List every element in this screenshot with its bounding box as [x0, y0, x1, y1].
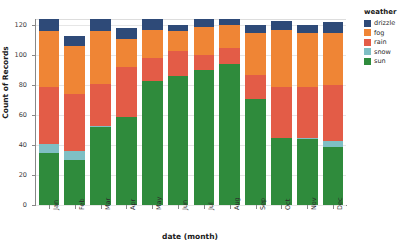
- legend-item-drizzle[interactable]: drizzle: [364, 19, 396, 27]
- bar-segment-rain[interactable]: [194, 55, 215, 70]
- x-axis-tick-label: Sep: [259, 198, 267, 210]
- bar-segment-fog[interactable]: [297, 33, 318, 87]
- x-axis-tick-label: Oct: [284, 199, 292, 210]
- x-axis-tick-label: Feb: [78, 198, 86, 210]
- bar-segment-rain[interactable]: [142, 58, 163, 81]
- bar-segment-drizzle[interactable]: [271, 21, 292, 30]
- bar-segment-drizzle[interactable]: [39, 19, 60, 31]
- legend-swatch-sun: [364, 58, 371, 65]
- x-axis-tick: [230, 205, 231, 209]
- bar-segment-drizzle[interactable]: [116, 28, 137, 39]
- bar-segment-sun[interactable]: [245, 99, 266, 206]
- legend-label-fog: fog: [374, 29, 384, 37]
- bar-segment-sun[interactable]: [297, 139, 318, 205]
- x-axis-tick-label: Aug: [233, 197, 241, 210]
- x-axis-tick: [101, 205, 102, 209]
- bar-segment-drizzle[interactable]: [64, 36, 85, 47]
- y-axis-tick-label: 0: [0, 201, 27, 209]
- bar-segment-sun[interactable]: [219, 64, 240, 205]
- bar-group[interactable]: [245, 25, 266, 205]
- bar-segment-snow[interactable]: [64, 151, 85, 160]
- x-axis-tick-label: Nov: [310, 197, 318, 210]
- legend-label-drizzle: drizzle: [374, 19, 395, 27]
- bar-segment-drizzle[interactable]: [323, 22, 344, 33]
- bar-segment-fog[interactable]: [271, 30, 292, 87]
- plot-top-border: [36, 19, 346, 20]
- bar-segment-rain[interactable]: [39, 87, 60, 144]
- x-axis-title: date (month): [0, 232, 380, 241]
- bar-segment-drizzle[interactable]: [90, 19, 111, 31]
- bar-group[interactable]: [116, 28, 137, 205]
- bar-segment-rain[interactable]: [323, 85, 344, 141]
- bar-segment-rain[interactable]: [245, 75, 266, 99]
- bar-segment-drizzle[interactable]: [297, 25, 318, 33]
- bar-segment-sun[interactable]: [271, 138, 292, 206]
- legend-swatch-rain: [364, 39, 371, 46]
- bar-segment-drizzle[interactable]: [245, 25, 266, 33]
- bar-segment-sun[interactable]: [194, 70, 215, 205]
- bar-segment-sun[interactable]: [39, 153, 60, 206]
- x-axis-tick-label: Jan: [52, 200, 60, 210]
- bar-segment-rain[interactable]: [116, 67, 137, 117]
- x-axis-tick: [307, 205, 308, 209]
- bar-group[interactable]: [168, 25, 189, 205]
- bar-segment-drizzle[interactable]: [142, 19, 163, 30]
- bar-segment-fog[interactable]: [64, 46, 85, 94]
- x-axis-tick: [204, 205, 205, 209]
- bar-segment-fog[interactable]: [194, 27, 215, 56]
- x-axis-tick-label: Mar: [104, 198, 112, 210]
- legend-item-snow[interactable]: snow: [364, 48, 396, 56]
- legend-item-fog[interactable]: fog: [364, 29, 396, 37]
- x-axis-tick-label: Jun: [181, 200, 189, 210]
- x-axis-tick: [75, 205, 76, 209]
- legend-entries: drizzlefograinsnowsun: [364, 19, 396, 65]
- bar-group[interactable]: [142, 19, 163, 205]
- bar-segment-sun[interactable]: [90, 127, 111, 205]
- bar-group[interactable]: [271, 21, 292, 206]
- x-axis-tick-label: Dec: [336, 197, 344, 210]
- x-axis-tick: [281, 205, 282, 209]
- y-axis-title: Count of Records: [1, 23, 10, 143]
- x-axis-tick: [152, 205, 153, 209]
- legend-item-sun[interactable]: sun: [364, 57, 396, 65]
- plot-area: [36, 25, 346, 205]
- bar-segment-fog[interactable]: [245, 33, 266, 75]
- bar-segment-fog[interactable]: [90, 31, 111, 84]
- bar-segment-sun[interactable]: [116, 117, 137, 206]
- bar-segment-snow[interactable]: [39, 144, 60, 153]
- bar-group[interactable]: [39, 19, 60, 205]
- bar-segment-rain[interactable]: [168, 51, 189, 77]
- bar-segment-rain[interactable]: [64, 94, 85, 151]
- bar-segment-fog[interactable]: [168, 31, 189, 51]
- legend-label-snow: snow: [374, 48, 391, 56]
- x-axis-tick-label: Jul: [207, 202, 215, 210]
- bar-series-container: [36, 25, 346, 205]
- bar-group[interactable]: [64, 36, 85, 206]
- bar-segment-rain[interactable]: [90, 84, 111, 126]
- bar-group[interactable]: [194, 19, 215, 205]
- bar-segment-sun[interactable]: [142, 81, 163, 206]
- bar-segment-sun[interactable]: [168, 76, 189, 205]
- bar-group[interactable]: [219, 19, 240, 205]
- bar-segment-fog[interactable]: [116, 39, 137, 68]
- x-axis-tick: [256, 205, 257, 209]
- bar-segment-fog[interactable]: [219, 25, 240, 48]
- bar-segment-rain[interactable]: [297, 87, 318, 138]
- bar-segment-fog[interactable]: [39, 31, 60, 87]
- legend-label-sun: sun: [374, 57, 386, 65]
- bar-group[interactable]: [323, 22, 344, 205]
- bar-group[interactable]: [90, 19, 111, 205]
- bar-segment-drizzle[interactable]: [194, 19, 215, 27]
- bar-group[interactable]: [297, 25, 318, 205]
- legend: weather drizzlefograinsnowsun: [364, 8, 396, 67]
- chart-root: 020406080100120 JanFebMarAprMayJunJulAug…: [0, 0, 407, 250]
- legend-item-rain[interactable]: rain: [364, 38, 396, 46]
- x-axis-tick: [49, 205, 50, 209]
- bar-segment-fog[interactable]: [323, 33, 344, 86]
- legend-swatch-snow: [364, 48, 371, 55]
- bar-segment-fog[interactable]: [142, 30, 163, 59]
- legend-title: weather: [364, 8, 396, 16]
- x-axis-tick: [126, 205, 127, 209]
- bar-segment-rain[interactable]: [271, 87, 292, 138]
- bar-segment-rain[interactable]: [219, 48, 240, 65]
